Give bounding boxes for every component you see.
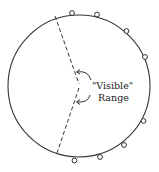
marker-point: [141, 119, 146, 124]
marker-point: [124, 29, 129, 34]
lower-boundary-dashed-line: [56, 88, 79, 156]
marker-point: [72, 158, 77, 163]
marker-point: [143, 55, 148, 60]
range-label: Range: [98, 92, 129, 103]
lower-curved-arrow-icon: [77, 95, 90, 102]
visible-range-diagram: "Visible" Range: [0, 0, 159, 172]
marker-point: [122, 143, 127, 148]
marker-point: [70, 11, 75, 16]
marker-point: [98, 155, 103, 160]
upper-boundary-dashed-line: [55, 16, 79, 84]
visible-label: "Visible": [92, 80, 133, 91]
marker-point: [95, 12, 100, 17]
